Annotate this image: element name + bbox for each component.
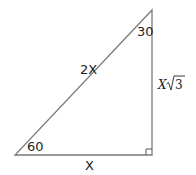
hypotenuse-label: 2X <box>80 62 97 77</box>
right-angle-marker <box>146 149 152 155</box>
vertical-side-var: X <box>157 78 167 92</box>
angle-top-label: 30 <box>137 24 154 39</box>
vertical-side-label: X 3 <box>157 76 185 92</box>
vertical-side-radicand: 3 <box>175 78 183 92</box>
angle-bottom-left-label: 60 <box>27 139 44 154</box>
triangle-diagram: 30 60 2X X X 3 <box>0 0 196 175</box>
triangle <box>15 10 152 155</box>
base-label: X <box>85 158 94 173</box>
